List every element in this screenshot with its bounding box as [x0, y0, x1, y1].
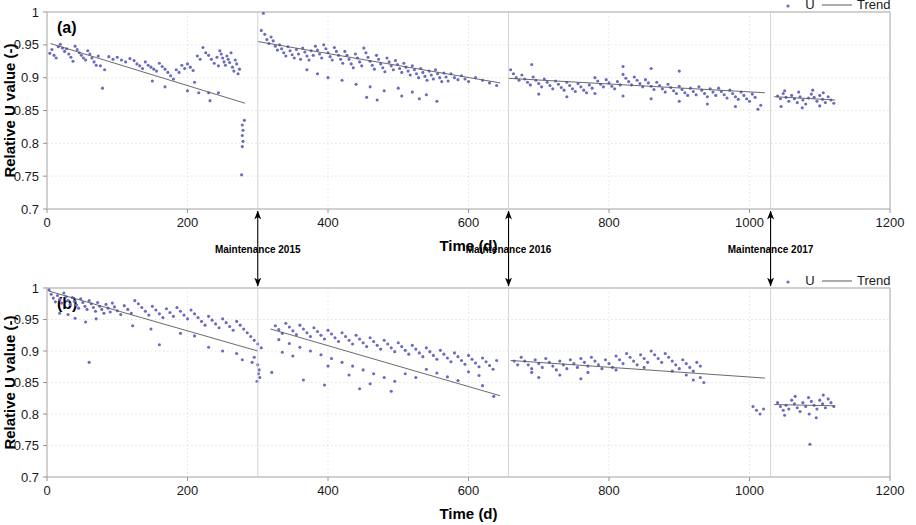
data-point: [467, 354, 470, 357]
data-point: [228, 61, 231, 64]
data-point: [138, 64, 141, 67]
data-point: [54, 300, 57, 303]
data-point: [277, 338, 280, 341]
data-point: [344, 335, 347, 338]
data-point: [664, 91, 667, 94]
data-point: [555, 368, 558, 371]
data-point: [200, 320, 203, 323]
data-point: [351, 343, 354, 346]
data-point: [76, 48, 79, 51]
data-point: [569, 358, 572, 361]
data-point: [446, 375, 449, 378]
data-point: [74, 45, 77, 48]
data-point: [622, 73, 625, 76]
data-point: [180, 64, 183, 67]
data-point: [492, 395, 495, 398]
data-point: [330, 332, 333, 335]
data-point: [532, 75, 535, 78]
maintenance-label: Maintenance 2015: [215, 244, 301, 255]
data-point: [397, 87, 400, 90]
data-point: [241, 123, 244, 126]
data-point: [113, 305, 116, 308]
data-point: [417, 76, 420, 79]
data-point: [636, 363, 639, 366]
data-point: [660, 361, 663, 364]
data-point: [706, 95, 709, 98]
data-point: [652, 88, 655, 91]
data-point: [520, 356, 523, 359]
data-point: [783, 89, 786, 92]
data-point: [597, 363, 600, 366]
data-point: [77, 307, 80, 310]
data-point: [591, 87, 594, 90]
data-point: [320, 56, 323, 59]
data-point: [63, 50, 66, 53]
data-point: [192, 69, 195, 72]
data-point: [299, 58, 302, 61]
data-point: [152, 68, 155, 71]
data-point: [576, 366, 579, 369]
data-point: [358, 387, 361, 390]
legend-dot-marker-icon: [786, 4, 789, 7]
data-point: [135, 62, 138, 65]
data-point: [102, 312, 105, 315]
y-axis-title: Relative U value (-): [1, 315, 18, 449]
data-point: [293, 56, 296, 59]
data-point: [319, 334, 322, 337]
data-point: [699, 376, 702, 379]
data-point: [376, 98, 379, 101]
data-point: [58, 298, 61, 301]
data-point: [155, 70, 158, 73]
data-point: [590, 356, 593, 359]
data-point: [323, 383, 326, 386]
data-point: [348, 339, 351, 342]
data-point: [596, 79, 599, 82]
data-point: [241, 129, 244, 132]
data-point: [683, 91, 686, 94]
data-point: [58, 312, 61, 315]
data-point: [193, 334, 196, 337]
data-point: [348, 58, 351, 61]
data-point: [94, 310, 97, 313]
data-point: [210, 58, 213, 61]
data-point: [95, 64, 98, 67]
x-axis-title: Time (d): [439, 505, 497, 522]
data-point: [492, 368, 495, 371]
data-point: [241, 358, 244, 361]
data-point: [365, 345, 368, 348]
data-point: [393, 380, 396, 383]
data-point: [207, 346, 210, 349]
data-point: [189, 66, 192, 69]
data-point: [593, 92, 596, 95]
data-point: [375, 54, 378, 57]
data-point: [74, 317, 77, 320]
data-point: [372, 372, 375, 375]
data-point: [284, 54, 287, 57]
data-point: [154, 309, 157, 312]
data-point: [265, 38, 268, 41]
data-point: [565, 367, 568, 370]
data-point: [213, 62, 216, 65]
data-point: [755, 409, 758, 412]
data-point: [541, 366, 544, 369]
data-point: [251, 361, 254, 364]
data-point: [421, 355, 424, 358]
data-point: [725, 96, 728, 99]
data-point: [818, 94, 821, 97]
x-tick-label: 800: [598, 483, 620, 498]
data-point: [377, 58, 380, 61]
data-point: [548, 84, 551, 87]
data-point: [582, 89, 585, 92]
data-point: [189, 309, 192, 312]
data-point: [711, 91, 714, 94]
data-point: [435, 372, 438, 375]
data-point: [520, 73, 523, 76]
data-point: [428, 350, 431, 353]
data-point: [616, 80, 619, 83]
data-point: [678, 70, 681, 73]
data-point: [329, 55, 332, 58]
data-point: [540, 85, 543, 88]
data-point: [59, 43, 62, 46]
data-point: [253, 356, 256, 359]
data-point: [288, 342, 291, 345]
